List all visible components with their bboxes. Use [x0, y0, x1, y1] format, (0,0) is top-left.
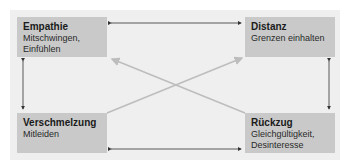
node-subtitle: Gleichgültigkeit, [251, 129, 329, 140]
node-rueckzug: Rückzug Gleichgültigkeit, Desinteresse [245, 113, 335, 153]
node-subtitle: Mitschwingen, [23, 33, 101, 44]
node-subtitle: Einfühlen [23, 44, 101, 55]
node-title: Verschmelzung [23, 117, 101, 129]
arrow-verschmelzung-to-distanz [107, 58, 242, 113]
node-verschmelzung: Verschmelzung Mitleiden [17, 113, 107, 153]
node-title: Rückzug [251, 117, 329, 129]
node-subtitle: Desinteresse [251, 140, 329, 151]
node-empathie: Empathie Mitschwingen, Einfühlen [17, 17, 107, 57]
node-title: Empathie [23, 21, 101, 33]
node-title: Distanz [251, 21, 329, 33]
node-subtitle: Mitleiden [23, 129, 101, 140]
node-subtitle: Grenzen einhalten [251, 33, 329, 44]
arrow-rueckzug-to-empathie [112, 59, 245, 113]
node-distanz: Distanz Grenzen einhalten [245, 17, 335, 57]
